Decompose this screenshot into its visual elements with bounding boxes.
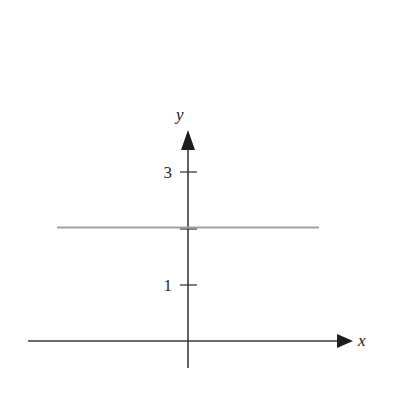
y-tick-label-3: 3 bbox=[150, 164, 172, 181]
x-axis-label: x bbox=[358, 332, 366, 349]
cartesian-plot bbox=[0, 0, 394, 397]
caption-strip bbox=[0, 385, 394, 397]
y-tick-label-1: 1 bbox=[150, 277, 172, 294]
x-axis-arrowhead-icon bbox=[337, 334, 353, 348]
graph-figure: y x 3 1 bbox=[0, 0, 394, 397]
y-axis-arrowhead-icon bbox=[181, 130, 195, 150]
y-axis-label: y bbox=[176, 106, 184, 123]
